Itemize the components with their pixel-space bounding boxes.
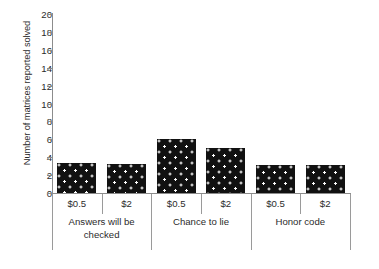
x-axis-price-label: $0.5 bbox=[52, 194, 102, 214]
y-axis-tick-mark bbox=[47, 50, 52, 51]
x-axis-price-label: $2 bbox=[201, 194, 251, 214]
x-axis-category-table: $0.5$2Answers will bechecked$0.5$2Chance… bbox=[52, 194, 351, 250]
x-axis-separator bbox=[300, 194, 301, 214]
y-axis-tick-mark bbox=[47, 32, 52, 33]
y-axis-tick-mark bbox=[47, 86, 52, 87]
x-axis-group-label: Answers will bechecked bbox=[52, 216, 151, 241]
y-axis-tick-mark bbox=[47, 104, 52, 105]
x-axis-price-label: $0.5 bbox=[251, 194, 301, 214]
x-axis-separator bbox=[350, 194, 351, 250]
y-axis-tick-mark bbox=[47, 68, 52, 69]
y-axis-tick-mark bbox=[47, 139, 52, 140]
y-axis-tick-mark bbox=[47, 14, 52, 15]
x-axis-group-label: Chance to lie bbox=[151, 216, 250, 229]
bar bbox=[107, 164, 146, 193]
x-axis-separator bbox=[52, 194, 53, 250]
bar bbox=[306, 165, 345, 193]
bar bbox=[256, 165, 295, 193]
x-axis-price-label: $0.5 bbox=[151, 194, 201, 214]
bar bbox=[206, 148, 245, 193]
x-axis-price-label: $2 bbox=[300, 194, 350, 214]
x-axis-group-label: Honor code bbox=[251, 216, 350, 229]
x-axis-separator bbox=[201, 194, 202, 214]
y-axis-tick-mark bbox=[47, 175, 52, 176]
bar bbox=[157, 139, 196, 193]
bar-chart: Number of matrices reported solved 20181… bbox=[0, 0, 379, 269]
y-axis-tick-mark bbox=[47, 157, 52, 158]
x-axis-price-label: $2 bbox=[102, 194, 152, 214]
y-axis-tick-mark bbox=[47, 193, 52, 194]
plot-area bbox=[52, 14, 350, 193]
x-axis-separator bbox=[102, 194, 103, 214]
y-axis-tick-mark bbox=[47, 121, 52, 122]
bar bbox=[57, 163, 96, 193]
